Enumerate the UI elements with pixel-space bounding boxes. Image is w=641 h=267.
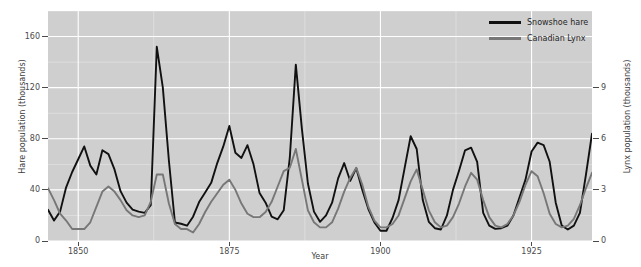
x-axis-tick-label: 1850	[53, 247, 103, 256]
legend-item-label: Canadian Lynx	[527, 34, 586, 43]
y-axis-left-tick-label: 80	[6, 134, 40, 143]
y-axis-right-tickmark	[593, 87, 599, 88]
y-axis-right-tick-label: 0	[601, 236, 635, 245]
y-axis-left-tickmark	[42, 87, 48, 88]
legend-item-label: Snowshoe hare	[527, 18, 588, 27]
y-axis-left-tickmark	[42, 36, 48, 37]
y-axis-left-tick-label: 40	[6, 185, 40, 194]
y-axis-right-tickmark	[593, 138, 599, 139]
chart-figure: Hare population (thousands) Lynx populat…	[0, 0, 641, 267]
legend-key-line-icon	[489, 21, 521, 24]
x-axis-tickmark	[380, 242, 381, 246]
y-axis-right-tickmark	[593, 241, 599, 242]
y-axis-right-tick-label: 3	[601, 185, 635, 194]
legend-key-line-icon	[489, 37, 521, 40]
x-axis-tickmark	[229, 242, 230, 246]
y-axis-left-tick-label: 160	[6, 32, 40, 41]
x-axis-tick-label: 1875	[204, 247, 254, 256]
y-axis-left-tick-label: 120	[6, 83, 40, 92]
x-axis-tickmark	[531, 242, 532, 246]
y-axis-left-tickmark	[42, 189, 48, 190]
x-axis-tick-label: 1900	[355, 247, 405, 256]
y-axis-left-tickmark	[42, 241, 48, 242]
y-axis-left-tick-label: 0	[6, 236, 40, 245]
y-axis-right-tickmark	[593, 189, 599, 190]
y-axis-right-tick-label: 6	[601, 134, 635, 143]
legend-item[interactable]: Snowshoe hare	[489, 16, 588, 28]
legend-item[interactable]: Canadian Lynx	[489, 32, 588, 44]
x-axis-tickmark	[78, 242, 79, 246]
x-axis-tick-label: 1925	[507, 247, 557, 256]
chart-legend: Snowshoe hareCanadian Lynx	[489, 16, 588, 44]
y-axis-right-tick-label: 9	[601, 83, 635, 92]
y-axis-left-tickmark	[42, 138, 48, 139]
